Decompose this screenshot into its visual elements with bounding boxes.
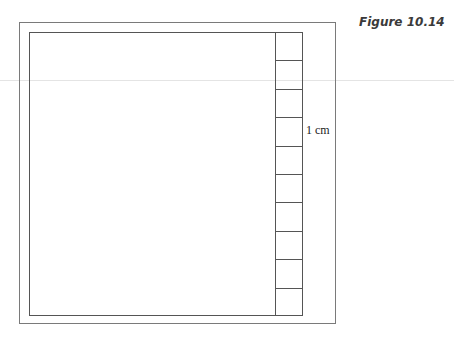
ruler-segment (276, 89, 303, 117)
unit-label: 1 cm (306, 123, 330, 138)
ruler-segment (276, 202, 303, 230)
ruler-segment (276, 231, 303, 259)
ruler-segment (276, 32, 303, 60)
ruler-segment (276, 259, 303, 287)
ruler-segment (276, 288, 303, 316)
centimeter-ruler (275, 32, 303, 316)
ruler-segment (276, 117, 303, 145)
ruler-segment (276, 60, 303, 88)
ruler-segment (276, 146, 303, 174)
figure-title: Figure 10.14 (359, 15, 445, 29)
square-region (29, 32, 303, 316)
ruler-segment (276, 174, 303, 202)
